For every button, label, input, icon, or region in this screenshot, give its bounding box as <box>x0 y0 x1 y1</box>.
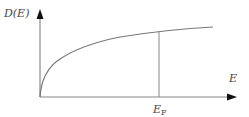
y-axis-arrowhead-icon <box>37 9 44 19</box>
x-axis-label: E <box>228 72 237 85</box>
x-axis-arrowhead-icon <box>227 94 237 101</box>
y-axis-label: D(E) <box>3 7 29 20</box>
fermi-label-main: E <box>152 103 161 116</box>
fermi-label-sub: F <box>161 108 167 117</box>
fermi-level-label: EF <box>152 103 167 117</box>
dos-curve <box>40 27 213 97</box>
dos-diagram: D(E) E EF <box>0 0 249 117</box>
